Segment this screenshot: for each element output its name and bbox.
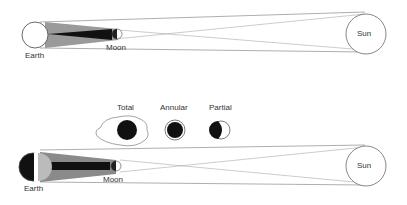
eclipse-diagram xyxy=(0,0,407,205)
lunar-eclipse-diagram xyxy=(22,12,386,54)
earth-label: Earth xyxy=(24,184,43,193)
earth-icon xyxy=(22,22,48,48)
sun-label: Sun xyxy=(357,161,371,170)
sun-label: Sun xyxy=(357,29,371,38)
total-eclipse-icon xyxy=(117,120,137,140)
partial-label: Partial xyxy=(209,103,232,112)
earth-label: Earth xyxy=(25,51,44,60)
annular-label: Annular xyxy=(160,103,188,112)
moon-label: Moon xyxy=(103,175,123,184)
total-label: Total xyxy=(117,103,134,112)
eclipse-types xyxy=(96,116,230,146)
moon-label: Moon xyxy=(106,43,126,52)
solar-eclipse-diagram xyxy=(19,145,386,186)
